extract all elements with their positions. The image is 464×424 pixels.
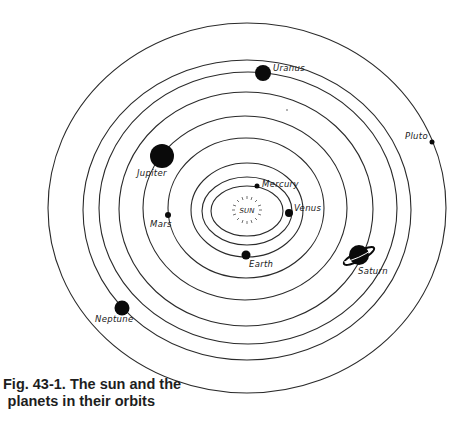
venus-label: Venus — [294, 203, 322, 213]
caption-line-1: Fig. 43-1. The sun and the — [3, 376, 155, 393]
planet-mars: Mars — [150, 212, 172, 229]
saturn-label: Saturn — [358, 266, 388, 276]
planet-uranus: Uranus — [255, 63, 305, 81]
jupiter-label: Jupiter — [135, 168, 167, 178]
solar-system-diagram: SUN Mercury Venus Earth Mars Jupiter Sat… — [0, 0, 464, 424]
mars-label: Mars — [150, 219, 172, 229]
planet-jupiter: Jupiter — [135, 144, 174, 178]
stray-speck — [286, 109, 288, 111]
planet-neptune: Neptune — [95, 301, 133, 325]
planet-saturn: Saturn — [342, 244, 388, 276]
caption-line-2: planets in their orbits — [3, 393, 155, 410]
venus-dot — [285, 209, 293, 217]
sun: SUN — [232, 196, 262, 224]
mercury-dot — [255, 184, 260, 189]
jupiter-dot — [150, 144, 174, 168]
mercury-label: Mercury — [262, 179, 299, 189]
pluto-label: Pluto — [405, 131, 428, 141]
earth-label: Earth — [249, 259, 273, 269]
mars-dot — [165, 212, 171, 218]
planet-pluto: Pluto — [405, 131, 435, 145]
uranus-dot — [255, 65, 271, 81]
uranus-label: Uranus — [273, 63, 305, 73]
pluto-dot — [430, 140, 435, 145]
figure-caption: Fig. 43-1. The sun and the planets in th… — [3, 376, 155, 410]
planet-mercury: Mercury — [255, 179, 300, 189]
neptune-label: Neptune — [95, 314, 133, 324]
sun-label: SUN — [240, 207, 256, 215]
